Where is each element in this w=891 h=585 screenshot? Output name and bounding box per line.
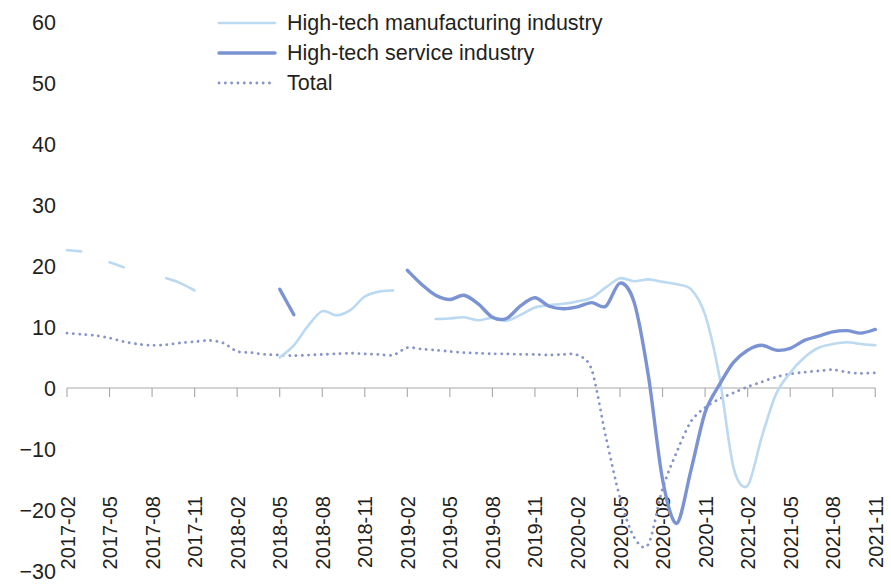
x-tick-label: 2021-02 <box>737 496 759 569</box>
legend-label: High-tech service industry <box>287 41 535 65</box>
y-tick-label: 30 <box>32 194 56 218</box>
y-tick-label: −10 <box>20 438 57 462</box>
y-axis-tick-labels: 6050403020100−10−20−30 <box>20 11 57 584</box>
x-tick-label: 2020-08 <box>652 496 674 569</box>
x-tick-label: 2020-02 <box>567 496 589 569</box>
y-tick-label: 60 <box>32 11 56 35</box>
x-tick-label: 2021-08 <box>822 496 844 569</box>
series-line <box>280 290 393 357</box>
y-tick-label: 20 <box>32 255 56 279</box>
x-tick-label: 2017-08 <box>142 496 164 569</box>
x-tick-label: 2017-11 <box>184 496 206 568</box>
legend-label: Total <box>287 71 332 95</box>
series-line <box>280 289 294 315</box>
line-chart: 6050403020100−10−20−30 2017-022017-05201… <box>0 0 891 585</box>
x-tick-label: 2020-11 <box>695 496 717 568</box>
series-line <box>407 270 875 523</box>
x-tick-label: 2019-02 <box>397 496 419 569</box>
legend-label: High-tech manufacturing industry <box>287 11 603 35</box>
x-tick-label: 2019-11 <box>524 496 546 568</box>
series-line <box>110 262 124 267</box>
x-tick-label: 2018-08 <box>312 496 334 569</box>
x-axis <box>67 388 875 397</box>
y-tick-label: 50 <box>32 72 56 96</box>
x-tick-label: 2017-02 <box>57 496 79 569</box>
x-tick-label: 2019-05 <box>439 496 461 569</box>
chart-legend: High-tech manufacturing industryHigh-tec… <box>219 11 603 95</box>
y-tick-label: 40 <box>32 133 56 157</box>
y-tick-label: −30 <box>20 560 57 584</box>
x-tick-label: 2018-02 <box>227 496 249 569</box>
x-tick-label: 2017-05 <box>99 496 121 569</box>
y-tick-label: −20 <box>20 499 57 523</box>
series-line <box>67 250 81 251</box>
x-tick-label: 2018-05 <box>269 496 291 569</box>
x-tick-label: 2021-05 <box>780 496 802 569</box>
x-tick-label: 2021-11 <box>865 496 887 568</box>
x-tick-label: 2020-05 <box>610 496 632 569</box>
y-tick-label: 0 <box>44 377 56 401</box>
chart-container: 6050403020100−10−20−30 2017-022017-05201… <box>0 0 891 585</box>
series-line <box>166 278 194 290</box>
y-tick-label: 10 <box>32 316 56 340</box>
x-tick-label: 2018-11 <box>354 496 376 568</box>
x-tick-label: 2019-08 <box>482 496 504 569</box>
x-axis-tick-labels: 2017-022017-052017-082017-112018-022018-… <box>57 496 887 569</box>
series-line <box>436 278 876 487</box>
